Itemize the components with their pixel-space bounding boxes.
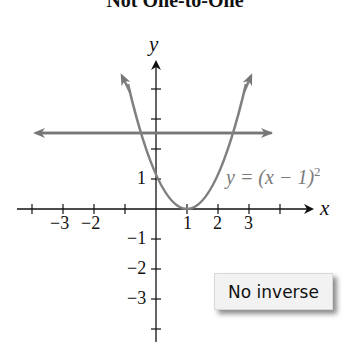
y-axis-label: y [149,32,158,57]
x-tick-label: −3 [50,213,69,234]
y-tick-label: −1 [127,228,146,249]
x-tick-label: 2 [213,213,222,234]
equation-text: y = (x − 1) [226,166,314,188]
x-tick-label: 1 [183,213,192,234]
y-axis [151,62,161,342]
figure: Not One-to-One [0,0,350,345]
no-inverse-callout: No inverse [214,273,333,310]
equation-exponent: 2 [314,164,321,179]
y-tick-label: −2 [127,258,146,279]
equation-label: y = (x − 1)2 [226,164,321,189]
y-tick-label: 1 [137,168,146,189]
x-axis-label: x [320,196,329,221]
x-tick-label: 3 [244,213,253,234]
x-tick-label: −2 [81,213,100,234]
y-tick-label: −3 [127,288,146,309]
parabola-curve [128,84,246,209]
